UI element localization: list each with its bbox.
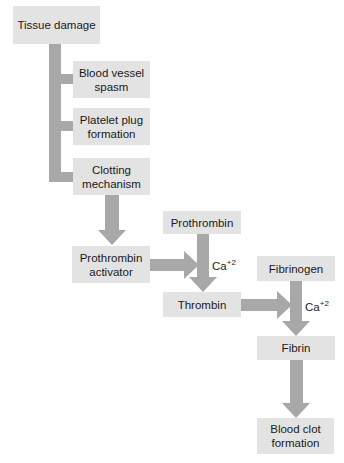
calcium-symbol: Ca [212, 260, 227, 272]
node-prothrombin-activator: Prothrombin activator [72, 246, 150, 283]
node-fibrin: Fibrin [257, 336, 335, 360]
node-label: Fibrinogen [269, 262, 323, 276]
trunk-connector [49, 44, 61, 182]
arrow-shaft-clotting-activator [105, 195, 119, 231]
node-label: Thrombin [178, 298, 227, 312]
node-thrombin: Thrombin [163, 292, 241, 317]
arrow-shaft-prothrombin-thrombin [197, 234, 209, 278]
node-label: Blood vessel spasm [77, 66, 147, 94]
node-label: Prothrombin activator [75, 251, 147, 279]
calcium-symbol: Ca [305, 301, 320, 313]
node-label: Fibrin [282, 341, 311, 355]
arrow-shaft-fibrin-clot [290, 360, 303, 404]
branch-connector-platelet [49, 121, 73, 131]
node-blood-vessel-spasm: Blood vessel spasm [73, 61, 150, 98]
branch-connector-spasm [49, 74, 73, 84]
calcium-label: Ca+2 [305, 299, 329, 313]
node-label: Platelet plug formation [77, 113, 147, 141]
calcium-label: Ca+2 [212, 258, 236, 272]
branch-connector-clotting [49, 172, 73, 182]
node-platelet-plug: Platelet plug formation [73, 108, 150, 145]
node-fibrinogen: Fibrinogen [257, 256, 335, 281]
node-label: Prothrombin [171, 216, 234, 230]
node-label: Clotting mechanism [77, 163, 147, 191]
node-label: Blood clot formation [266, 422, 326, 450]
arrow-head-down-icon [282, 403, 310, 418]
node-tissue-damage: Tissue damage [13, 6, 100, 44]
calcium-charge: +2 [227, 258, 236, 267]
node-label: Tissue damage [17, 18, 95, 32]
arrow-head-down-icon [189, 277, 217, 292]
arrow-shaft-fibrinogen-fibrin [290, 281, 302, 322]
node-blood-clot: Blood clot formation [257, 418, 334, 454]
arrow-shaft-activator-right [150, 259, 184, 271]
arrow-head-down-icon [98, 230, 126, 245]
node-clotting-mechanism: Clotting mechanism [73, 158, 150, 195]
arrow-shaft-thrombin-right [241, 299, 277, 311]
node-prothrombin: Prothrombin [163, 211, 241, 234]
arrow-head-down-icon [282, 321, 310, 336]
calcium-charge: +2 [320, 299, 329, 308]
